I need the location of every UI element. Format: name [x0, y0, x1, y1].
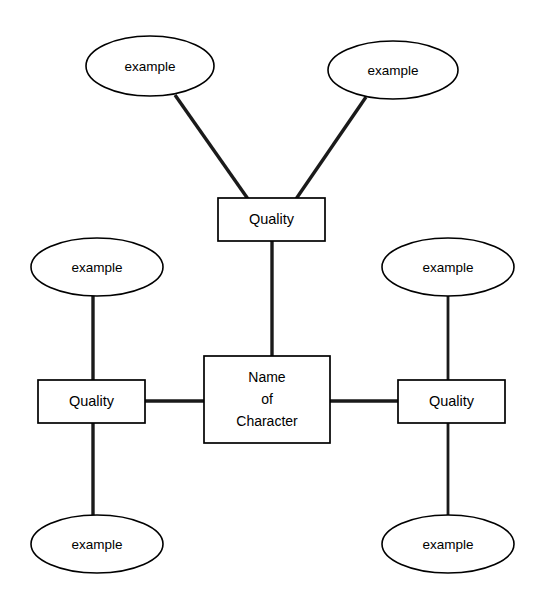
example-label-right-lower: example [422, 537, 473, 552]
quality-label-right: Quality [429, 393, 475, 409]
center-node[interactable]: Name of Character [204, 356, 330, 443]
example-label-right-upper: example [422, 260, 473, 275]
quality-label-left: Quality [69, 393, 115, 409]
quality-node-right[interactable]: Quality [398, 380, 505, 423]
center-label-line3: Character [236, 413, 298, 429]
quality-node-left[interactable]: Quality [38, 380, 145, 423]
example-label-left-lower: example [71, 537, 122, 552]
example-node-left-lower[interactable]: example [31, 515, 163, 573]
center-label-line2: of [261, 391, 273, 407]
connector-example-top-left-to-quality-top [175, 95, 248, 199]
example-node-top-left[interactable]: example [86, 36, 214, 96]
example-label-top-right: example [367, 63, 418, 78]
character-quality-web-diagram: example example example example example [0, 0, 540, 606]
example-node-right-lower[interactable]: example [382, 515, 514, 573]
center-label-line1: Name [248, 369, 286, 385]
example-node-top-right[interactable]: example [328, 41, 458, 99]
quality-node-top[interactable]: Quality [218, 198, 325, 241]
connector-example-top-right-to-quality-top [296, 97, 366, 199]
example-label-top-left: example [124, 59, 175, 74]
example-node-right-upper[interactable]: example [382, 238, 514, 296]
diagram-canvas: example example example example example [0, 0, 540, 606]
quality-label-top: Quality [249, 211, 295, 227]
connector-group [93, 95, 448, 519]
example-label-left-upper: example [71, 260, 122, 275]
example-node-left-upper[interactable]: example [31, 238, 163, 296]
